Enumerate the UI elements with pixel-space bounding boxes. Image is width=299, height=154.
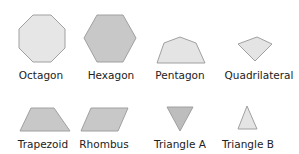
pentagon-label: Pentagon <box>155 69 204 81</box>
trapezoid-label: Trapezoid <box>17 138 68 150</box>
triangle-a-label: Triangle A <box>153 138 207 150</box>
rhombus-shape <box>81 108 128 131</box>
shape-triangle-a: Triangle A <box>153 107 207 150</box>
polygon-figure: Octagon Hexagon Pentagon Quadrilateral T… <box>0 0 299 154</box>
shape-triangle-b: Triangle B <box>221 106 274 150</box>
shape-hexagon: Hexagon <box>84 15 136 81</box>
shape-quadrilateral: Quadrilateral <box>225 37 294 81</box>
quadrilateral-shape <box>238 37 272 61</box>
triangle-b-label: Triangle B <box>221 138 274 150</box>
octagon-label: Octagon <box>19 69 63 81</box>
octagon-shape <box>19 15 65 62</box>
hexagon-shape <box>84 15 136 62</box>
shape-pentagon: Pentagon <box>155 37 205 81</box>
rhombus-label: Rhombus <box>79 138 128 150</box>
hexagon-label: Hexagon <box>88 69 135 81</box>
trapezoid-shape <box>20 108 70 131</box>
triangle-b-shape <box>238 106 257 129</box>
shape-trapezoid: Trapezoid <box>17 108 70 150</box>
shape-octagon: Octagon <box>19 15 65 81</box>
quadrilateral-label: Quadrilateral <box>225 69 294 81</box>
triangle-a-shape <box>167 107 193 131</box>
shape-rhombus: Rhombus <box>79 108 128 150</box>
pentagon-shape <box>157 37 205 63</box>
